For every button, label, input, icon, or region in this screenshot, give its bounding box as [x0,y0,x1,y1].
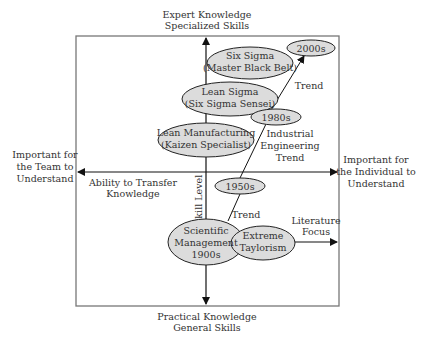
skill-level-label: Skill Level [193,175,204,225]
quadrant-frame [76,36,339,306]
scientific-management-label-line3: 1900s [191,249,220,260]
bottom-axis-label-line1: Practical Knowledge [157,311,257,322]
industrial-engineering-trend-line2: Engineering [260,140,319,151]
skill-diagram: Expert Knowledge Specialized Skills Prac… [0,0,425,347]
era-1980s-label: 1980s [261,112,290,123]
lean-manufacturing-label-line2: (Kaizen Specialist) [161,139,251,150]
trend-upper-label: Trend [295,80,324,91]
transfer-knowledge-label-line1: Ability to Transfer [88,177,177,188]
era-2000s-label: 2000s [296,43,325,54]
literature-focus-line1: Literature [291,215,340,226]
top-axis-label-line1: Expert Knowledge [163,9,252,20]
six-sigma-label-line1: Six Sigma [226,50,275,61]
right-axis-label-line2: the Individual to [336,166,416,177]
industrial-engineering-trend-line3: Trend [276,152,305,163]
six-sigma-label-line2: (Master Black Belt) [203,62,297,73]
extreme-taylorism-label-line2: Taylorism [240,242,287,253]
scientific-management-label-line2: Management [174,237,238,248]
extreme-taylorism-label-line1: Extreme [243,230,284,241]
industrial-engineering-trend-line1: Industrial [266,128,313,139]
left-axis-label-line1: Important for [12,149,78,160]
top-axis-label-line2: Specialized Skills [165,20,249,31]
left-axis-label-line2: the Team to [16,161,73,172]
lean-sigma-label-line1: Lean Sigma [201,86,258,97]
trend-lower-label: Trend [232,209,261,220]
literature-focus-line2: Focus [302,226,330,237]
lean-manufacturing-label-line1: Lean Manufacturing [157,127,256,138]
bottom-axis-label-line2: General Skills [173,322,241,333]
lean-sigma-label-line2: (Six Sigma Sensei) [185,98,275,109]
right-axis-label-line3: Understand [348,178,405,189]
left-axis-label-line3: Understand [17,173,74,184]
transfer-knowledge-label-line2: Knowledge [106,188,160,199]
right-axis-label-line1: Important for [343,154,409,165]
scientific-management-label-line1: Scientific [183,225,228,236]
era-1950s-label: 1950s [225,181,254,192]
